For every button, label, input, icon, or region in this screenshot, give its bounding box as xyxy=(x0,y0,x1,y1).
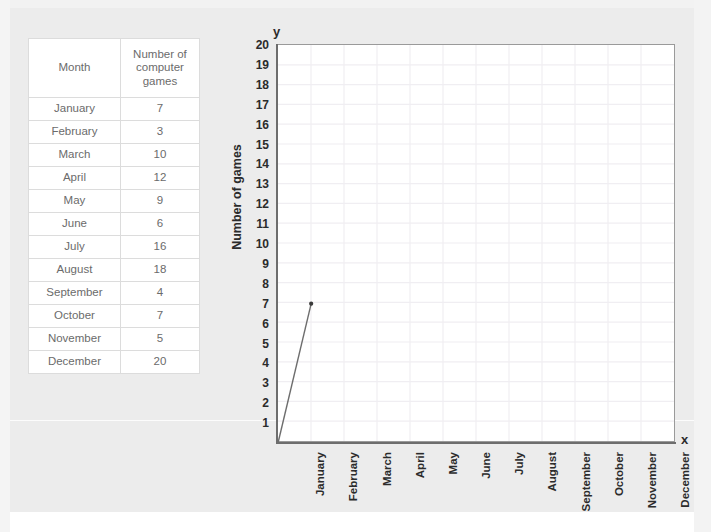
table-cell-value: 9 xyxy=(120,190,199,213)
y-axis-tick-label: 6 xyxy=(229,318,269,330)
table-cell-value: 20 xyxy=(120,351,199,374)
y-axis-tick-label: 15 xyxy=(229,139,269,151)
table-row: June6 xyxy=(29,213,200,236)
table-row: April12 xyxy=(29,167,200,190)
y-axis-letter: y xyxy=(273,24,280,39)
y-axis-tick-label: 9 xyxy=(229,258,269,270)
x-axis-tick-label: October xyxy=(613,408,625,452)
table-header-value-line2: computer xyxy=(136,61,184,73)
table-row: December20 xyxy=(29,351,200,374)
y-axis-tick-label: 20 xyxy=(229,39,269,51)
x-axis-tick-label: July xyxy=(513,429,525,452)
plot-area xyxy=(277,44,675,442)
y-axis-tick-label: 14 xyxy=(229,158,269,170)
x-axis-tick-label: April xyxy=(414,426,426,452)
x-axis-tick-label: November xyxy=(646,396,658,452)
table-cell-month: June xyxy=(29,213,121,236)
table-cell-value: 16 xyxy=(120,236,199,259)
y-axis-tick-label: 5 xyxy=(229,338,269,350)
y-axis-line xyxy=(276,44,278,443)
y-axis-tick-label: 8 xyxy=(229,278,269,290)
page-canvas: Month Number of computer games January7F… xyxy=(0,0,711,532)
table-cell-month: May xyxy=(29,190,121,213)
y-axis-tick-label: 2 xyxy=(229,397,269,409)
table-header-row: Month Number of computer games xyxy=(29,39,200,98)
y-axis-tick-label: 12 xyxy=(229,198,269,210)
table-cell-month: October xyxy=(29,305,121,328)
table-row: August18 xyxy=(29,259,200,282)
table-header-value: Number of computer games xyxy=(120,39,199,98)
sheet-top-margin xyxy=(0,0,711,8)
y-axis-tick-label: 10 xyxy=(229,238,269,250)
table-cell-month: September xyxy=(29,282,121,305)
sheet-left-margin xyxy=(0,0,10,532)
table-cell-month: November xyxy=(29,328,121,351)
y-axis-tick-label: 7 xyxy=(229,298,269,310)
table-cell-month: December xyxy=(29,351,121,374)
y-axis-ticks: 2019181716151413121110987654321 xyxy=(215,34,273,454)
table-row: January7 xyxy=(29,98,200,121)
table-cell-value: 7 xyxy=(120,305,199,328)
x-axis-tick-label: August xyxy=(546,412,558,452)
table-cell-month: July xyxy=(29,236,121,259)
table-cell-month: March xyxy=(29,144,121,167)
y-axis-tick-label: 3 xyxy=(229,377,269,389)
y-axis-tick-label: 18 xyxy=(229,79,269,91)
table-row: September4 xyxy=(29,282,200,305)
table-cell-value: 3 xyxy=(120,121,199,144)
table-row: October7 xyxy=(29,305,200,328)
data-series-layer xyxy=(278,45,676,443)
table-row: May9 xyxy=(29,190,200,213)
y-axis-tick-label: 11 xyxy=(229,218,269,230)
table-cell-month: February xyxy=(29,121,121,144)
table-cell-value: 18 xyxy=(120,259,199,282)
x-axis-tick-label: February xyxy=(347,403,359,452)
data-point-marker xyxy=(309,302,313,306)
data-line xyxy=(278,304,311,443)
table-row: November5 xyxy=(29,328,200,351)
y-axis-tick-label: 13 xyxy=(229,178,269,190)
y-axis-tick-label: 19 xyxy=(229,59,269,71)
table-row: February3 xyxy=(29,121,200,144)
table-cell-month: August xyxy=(29,259,121,282)
y-axis-tick-label: 1 xyxy=(229,417,269,429)
table-header-month: Month xyxy=(29,39,121,98)
y-axis-tick-label: 4 xyxy=(229,357,269,369)
table-cell-value: 7 xyxy=(120,98,199,121)
table-cell-value: 6 xyxy=(120,213,199,236)
table-body: January7February3March10April12May9June6… xyxy=(29,98,200,374)
table-header-value-line3: games xyxy=(143,75,178,87)
x-axis-tick-label: January xyxy=(314,408,326,452)
table-cell-value: 12 xyxy=(120,167,199,190)
table-row: March10 xyxy=(29,144,200,167)
x-axis-tick-label: March xyxy=(381,418,393,452)
table-cell-value: 10 xyxy=(120,144,199,167)
table-cell-value: 5 xyxy=(120,328,199,351)
table-cell-value: 4 xyxy=(120,282,199,305)
y-axis-tick-label: 17 xyxy=(229,99,269,111)
x-axis-tick-label: June xyxy=(480,425,492,452)
line-chart: Number of games y x 20191817161514131211… xyxy=(215,20,695,520)
sheet-right-margin xyxy=(694,0,711,532)
x-axis-tick-label: September xyxy=(580,393,592,452)
table-cell-month: April xyxy=(29,167,121,190)
data-table: Month Number of computer games January7F… xyxy=(28,38,200,374)
table-cell-month: January xyxy=(29,98,121,121)
table-header-value-line1: Number of xyxy=(133,48,187,60)
x-axis-tick-label: May xyxy=(447,430,459,452)
table-row: July16 xyxy=(29,236,200,259)
y-axis-tick-label: 16 xyxy=(229,119,269,131)
x-axis-tick-label: December xyxy=(679,396,691,452)
